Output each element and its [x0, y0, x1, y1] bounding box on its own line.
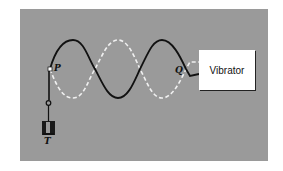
hook-loop	[46, 101, 51, 106]
label-q: Q	[175, 65, 183, 75]
label-p: P	[54, 63, 61, 73]
weight-icon	[42, 121, 55, 135]
vibrator-box: Vibrator	[199, 50, 255, 90]
vibrator-label: Vibrator	[210, 65, 245, 76]
label-t: T	[44, 136, 51, 146]
node-p-marker	[48, 67, 52, 71]
